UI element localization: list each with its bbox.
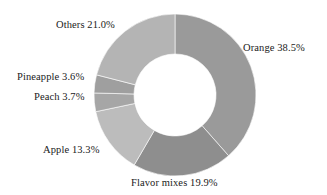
slice-label-others: Others 21.0% (56, 20, 115, 31)
chart-page: Orange 38.5%Flavor mixes 19.9%Apple 13.3… (0, 0, 327, 195)
slice-label-apple: Apple 13.3% (43, 145, 100, 156)
donut-slices-group: Orange 38.5%Flavor mixes 19.9%Apple 13.3… (94, 14, 256, 176)
slice-label-pineapple: Pineapple 3.6% (17, 72, 84, 83)
slice-label-peach: Peach 3.7% (34, 92, 85, 103)
slice-label-orange: Orange 38.5% (243, 43, 305, 54)
slice-label-flavor-mixes: Flavor mixes 19.9% (131, 178, 218, 189)
